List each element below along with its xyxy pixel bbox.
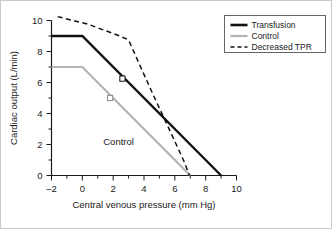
series-line-decreased-tpr xyxy=(58,17,190,176)
cardiac-output-plot: –20246810Central venous pressure (mm Hg)… xyxy=(1,1,332,229)
x-tick-label: –2 xyxy=(46,183,57,194)
x-tick-label: 10 xyxy=(231,183,242,194)
x-axis-title: Central venous pressure (mm Hg) xyxy=(72,199,215,210)
y-tick-label: 2 xyxy=(37,139,42,150)
y-axis-title: Cardiac output (L/min) xyxy=(8,51,19,145)
series-line-transfusion xyxy=(52,36,222,176)
y-tick-label: 0 xyxy=(37,170,42,181)
x-tick-label: 4 xyxy=(141,183,146,194)
y-tick-label: 10 xyxy=(32,15,43,26)
legend-label-decreased-tpr: Decreased TPR xyxy=(252,42,312,52)
y-tick-label: 8 xyxy=(37,46,42,57)
legend-label-transfusion: Transfusion xyxy=(252,20,296,30)
x-tick-label: 8 xyxy=(203,183,208,194)
plot-annotation-control: Control xyxy=(103,136,134,147)
series-marker-transfusion xyxy=(120,76,125,81)
x-tick-label: 6 xyxy=(172,183,177,194)
series-line-control xyxy=(52,67,191,176)
y-tick-label: 6 xyxy=(37,77,42,88)
chart-figure: –20246810Central venous pressure (mm Hg)… xyxy=(0,0,332,229)
y-tick-label: 4 xyxy=(37,108,42,119)
series-marker-control xyxy=(107,95,112,100)
x-tick-label: 0 xyxy=(80,183,85,194)
legend-label-control: Control xyxy=(252,31,280,41)
x-tick-label: 2 xyxy=(111,183,116,194)
